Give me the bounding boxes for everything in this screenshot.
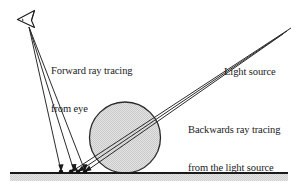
light-source-label: Light source [224, 41, 276, 104]
forward-ray-tracing-label: Forward ray tracing from eye [51, 40, 133, 140]
hit-point [83, 169, 87, 173]
hit-point [76, 169, 80, 173]
hit-point [59, 169, 63, 173]
ray-tracing-diagram: Forward ray tracing from eye Light sourc… [0, 0, 298, 190]
eye-icon [18, 11, 35, 28]
backwards-label-line2: from the light source [188, 162, 280, 175]
forward-label-line1: Forward ray tracing [51, 65, 133, 78]
light-source-label-line1: Light source [224, 66, 276, 79]
backwards-label-line1: Backwards ray tracing [188, 124, 280, 137]
hit-point [69, 169, 73, 173]
backwards-ray-tracing-label: Backwards ray tracing from the light sou… [188, 99, 280, 190]
forward-label-line2: from eye [51, 103, 133, 116]
